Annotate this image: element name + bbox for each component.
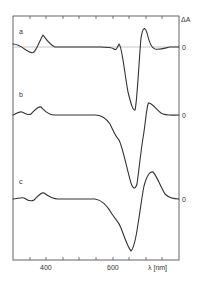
x-tick-label-400: 400 [40,264,52,271]
difference-spectra-chart: a b c ΔA 0 0 0 400 600 λ [nm] [0,0,200,288]
zero-label-c: 0 [182,196,186,203]
curve-label-c: c [19,178,23,185]
x-axis-label: λ [nm] [148,264,167,272]
bottom-ticks [30,257,162,260]
curve-c [13,172,179,251]
zero-label-a: 0 [182,44,186,51]
x-tick-label-600: 600 [107,264,119,271]
curve-label-a: a [19,28,23,35]
delta-a-label: ΔA [181,16,191,23]
plot-frame [13,16,179,260]
curve-b [13,103,179,188]
curve-label-b: b [19,91,23,98]
curve-a [13,29,179,110]
zero-label-b: 0 [182,112,186,119]
